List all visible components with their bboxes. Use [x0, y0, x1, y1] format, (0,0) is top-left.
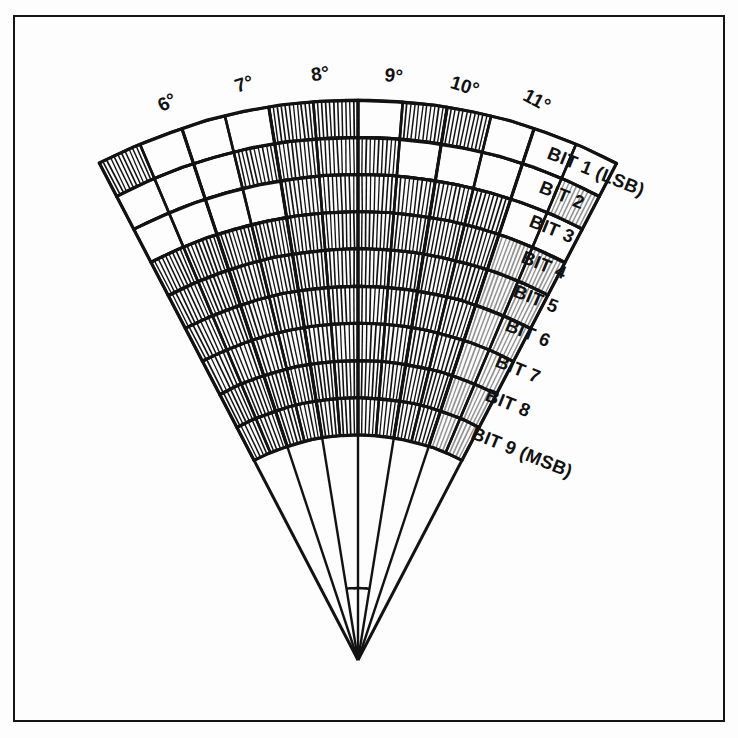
- cell-hatch: [207, 353, 237, 392]
- hatch-line: [384, 214, 386, 249]
- hatch-line: [313, 253, 317, 288]
- cell-hatch: [329, 250, 354, 286]
- hatch-line: [336, 325, 338, 360]
- hatch-line: [338, 251, 340, 286]
- cell-hatch: [434, 183, 469, 223]
- hatch-line: [281, 107, 285, 142]
- hatch-line: [311, 215, 314, 250]
- hatch-line: [445, 223, 453, 257]
- hatch-line: [336, 176, 338, 211]
- hatch-line: [381, 251, 383, 286]
- hatch-line: [472, 114, 479, 148]
- degree-tick-label: 6°: [154, 89, 180, 116]
- hatch-line: [373, 250, 374, 285]
- hatch-line: [380, 400, 383, 435]
- hatch-line: [334, 251, 336, 286]
- hatch-line: [329, 102, 331, 137]
- cell-hatch: [362, 399, 375, 434]
- cell-hatch: [398, 178, 431, 216]
- hatch-line: [434, 221, 441, 255]
- hatch-line: [472, 192, 481, 226]
- hatch-line: [349, 176, 350, 211]
- hatch-line: [306, 216, 310, 251]
- hatch-line: [394, 327, 398, 362]
- hatch-line: [341, 288, 343, 323]
- hatch-line: [389, 289, 392, 324]
- hatch-line: [346, 213, 347, 248]
- hatch-line: [390, 326, 394, 361]
- hatch-line: [407, 104, 411, 139]
- hatch-line: [320, 289, 323, 324]
- hatch-line: [250, 150, 258, 184]
- degree-spoke: [99, 163, 254, 460]
- hatch-line: [315, 178, 319, 213]
- degree-tick-label: 11°: [520, 84, 554, 116]
- hatch-line: [306, 178, 310, 213]
- cell-hatch: [386, 326, 407, 363]
- hatch-line: [305, 104, 309, 139]
- hatch-line: [298, 179, 302, 214]
- hatch-line: [254, 149, 261, 183]
- hatch-line: [377, 139, 379, 174]
- hatch-line: [261, 300, 270, 334]
- cell-hatch: [297, 252, 325, 289]
- hatch-line: [350, 362, 351, 397]
- hatch-line: [362, 250, 363, 285]
- hatch-line: [382, 363, 385, 398]
- hatch-line: [397, 290, 401, 325]
- hatch-line: [369, 399, 371, 434]
- hatch-line: [318, 103, 320, 138]
- hatch-line: [423, 105, 427, 140]
- hatch-line: [162, 258, 177, 290]
- hatch-line: [328, 177, 330, 212]
- hatch-line: [345, 399, 347, 434]
- hatch-line: [350, 399, 351, 434]
- hatch-line: [330, 363, 333, 398]
- hatch-line: [373, 288, 375, 323]
- hatch-line: [362, 399, 363, 434]
- cell-hatch: [241, 421, 266, 458]
- hatch-line: [242, 151, 250, 185]
- degree-tick-label: 8°: [310, 62, 331, 85]
- hatch-line: [386, 326, 390, 361]
- cell-hatch: [404, 103, 443, 142]
- hatch-line: [405, 405, 413, 439]
- hatch-line: [449, 224, 456, 258]
- hatch-line: [480, 194, 489, 228]
- degree-tick-label: 7°: [232, 71, 256, 97]
- cell-hatch: [285, 178, 318, 216]
- hatch-line: [338, 213, 339, 248]
- hatch-line: [464, 113, 471, 147]
- cell-hatch: [362, 176, 392, 212]
- cell-hatch: [303, 289, 328, 326]
- track-cell: [134, 213, 184, 263]
- hatch-line: [366, 138, 367, 173]
- hatch-line: [377, 251, 379, 286]
- hatch-line: [476, 193, 486, 226]
- cell-hatch: [389, 289, 413, 326]
- hatch-line: [330, 214, 332, 249]
- hatch-line: [386, 363, 390, 398]
- hatch-line: [426, 106, 431, 141]
- hatch-line: [333, 400, 336, 435]
- hatch-line: [386, 177, 388, 212]
- cell-hatch: [283, 330, 306, 368]
- cell-hatch: [427, 219, 460, 258]
- hatch-line: [372, 400, 374, 435]
- hatch-line: [333, 139, 335, 174]
- hatch-line: [299, 368, 306, 402]
- hatch-line: [159, 260, 174, 291]
- hatch-line: [387, 401, 391, 436]
- hatch-line: [431, 296, 439, 330]
- hatch-line: [309, 103, 312, 138]
- cell-hatch: [394, 215, 425, 253]
- hatch-line: [260, 224, 268, 258]
- hatch-line: [323, 177, 326, 212]
- hatch-line: [350, 101, 351, 136]
- cell-hatch: [380, 400, 396, 436]
- hatch-line: [338, 362, 340, 397]
- hatch-line: [342, 250, 343, 285]
- cell-hatch: [318, 101, 355, 137]
- hatch-line: [349, 138, 350, 173]
- cell-hatch: [362, 250, 387, 286]
